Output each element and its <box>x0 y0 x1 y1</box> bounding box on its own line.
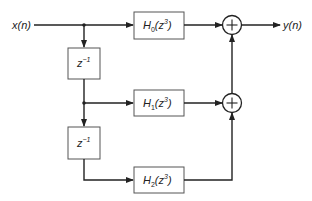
filter-h0-label: H0(z3) <box>143 18 172 33</box>
output-label: y(n) <box>282 19 302 31</box>
filter-block-h0: H0(z3) <box>134 12 184 39</box>
delay-block-2: z−1 <box>68 127 100 159</box>
line-h2-to-adder-2 <box>184 113 232 180</box>
filter-block-h1: H1(z3) <box>134 90 184 116</box>
line-to-h2 <box>84 159 133 180</box>
delay-block-1: z−1 <box>68 48 100 79</box>
filter-block-h2: H2(z3) <box>134 167 184 193</box>
filter-h1-label: H1(z3) <box>143 96 172 111</box>
adder-1 <box>223 16 242 35</box>
adder-2 <box>223 94 242 113</box>
block-diagram: x(n) z−1 z−1 H0(z3) H1(z3) <box>0 0 312 201</box>
filter-h2-label: H2(z3) <box>143 173 172 188</box>
input-label: x(n) <box>11 19 31 31</box>
